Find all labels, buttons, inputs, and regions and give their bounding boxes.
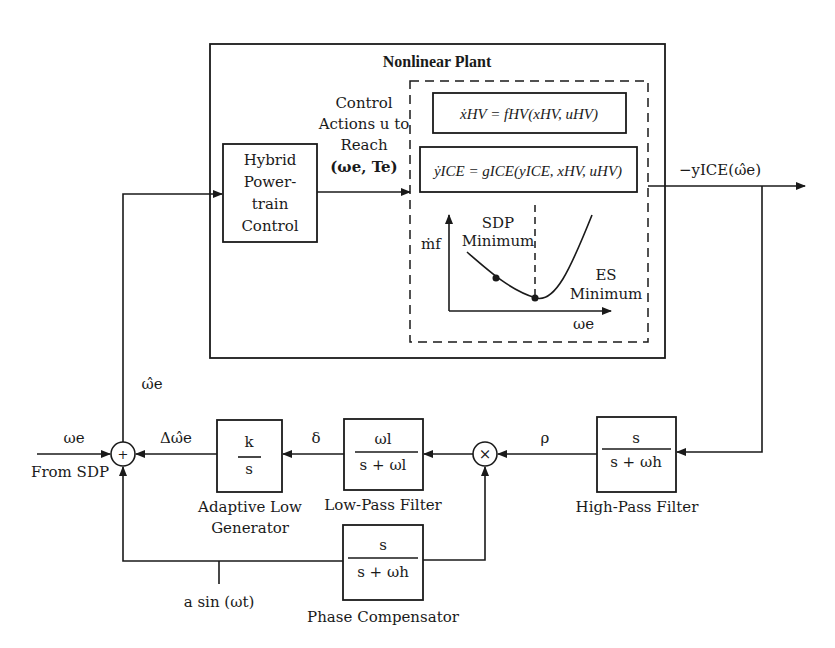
int-num: k xyxy=(244,433,254,451)
sdp-label-line1: SDP xyxy=(482,214,514,232)
es-label-line2: Minimum xyxy=(570,285,643,303)
hpf-num: s xyxy=(632,429,640,447)
int-caption-2: Generator xyxy=(211,519,290,537)
equation-hv: ẋHV = fHV(xHV, uHV) xyxy=(459,106,598,123)
es-minimum-point xyxy=(532,295,539,302)
delta-label: δ xyxy=(311,429,320,447)
equation-ice: ẏICE = gICE(yICE, xHV, uHV) xyxy=(432,163,622,180)
adaptive-low-generator-block: k s Adaptive Low Generator xyxy=(197,420,302,537)
sdp-minimum-point xyxy=(493,275,500,282)
extremum-seeking-diagram: Nonlinear Plant ẋHV = fHV(xHV, uHV) ẏICE… xyxy=(0,0,835,648)
pc-num: s xyxy=(379,536,387,554)
high-pass-filter-block: s s + ωh High-Pass Filter xyxy=(576,417,700,516)
low-pass-filter-block: ωl s + ωl Low-Pass Filter xyxy=(324,419,442,514)
delta-omega-hat-label: Δω̂e xyxy=(160,429,192,447)
lpf-den: s + ωl xyxy=(360,456,407,474)
summing-junction: + xyxy=(111,442,135,466)
int-den: s xyxy=(245,460,253,478)
equation-hv-block: ẋHV = fHV(xHV, uHV) xyxy=(433,93,626,133)
inset-ylabel: ṁf xyxy=(421,235,442,253)
inset-xlabel: ωe xyxy=(573,315,594,333)
rho-label: ρ xyxy=(541,429,550,447)
omega-hat-label: ω̂e xyxy=(141,375,162,393)
lpf-num: ωl xyxy=(374,430,391,448)
hpc-line3: train xyxy=(252,195,289,213)
ca-line1: Control xyxy=(335,94,392,112)
multiply-junction: × xyxy=(473,442,497,466)
sum-symbol: + xyxy=(118,447,129,462)
omega-e-label: ωe xyxy=(63,429,84,447)
pc-caption: Phase Compensator xyxy=(307,608,460,626)
int-caption-1: Adaptive Low xyxy=(197,498,302,516)
hpc-line2: Power- xyxy=(244,173,296,191)
ca-line2: Actions u to xyxy=(318,115,410,133)
hybrid-powertrain-control-block: Hybrid Power- train Control xyxy=(223,144,317,242)
dither-label: a sin (ωt) xyxy=(184,593,255,611)
hpc-line4: Control xyxy=(241,217,298,235)
lpf-caption: Low-Pass Filter xyxy=(324,496,442,514)
hpf-den: s + ωh xyxy=(610,453,662,471)
equation-ice-block: ẏICE = gICE(yICE, xHV, uHV) xyxy=(420,147,637,192)
output-label: −yICE(ω̂e) xyxy=(679,161,761,179)
omega-hat-to-hpc xyxy=(123,194,222,442)
feedback-to-hpf xyxy=(677,186,762,452)
pc-den: s + ωh xyxy=(357,563,409,581)
es-label-line1: ES xyxy=(595,266,616,284)
hpc-line1: Hybrid xyxy=(244,151,297,169)
ca-line4: (ωe, Te) xyxy=(330,158,397,176)
from-sdp-label: From SDP xyxy=(31,463,109,481)
hpf-caption: High-Pass Filter xyxy=(576,498,700,516)
multiply-symbol: × xyxy=(479,445,492,463)
sdp-label-line2: Minimum xyxy=(462,232,535,250)
plant-title: Nonlinear Plant xyxy=(383,53,492,70)
phase-compensator-block: s s + ωh Phase Compensator xyxy=(307,525,460,626)
ca-line3: Reach xyxy=(340,136,388,154)
